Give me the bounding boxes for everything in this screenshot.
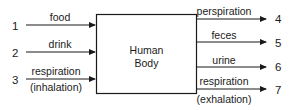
output-number-4: 4 — [275, 13, 281, 25]
input-number-2: 2 — [12, 47, 18, 59]
input-label-respiration: respiration — [31, 65, 80, 77]
output-number-7: 7 — [275, 84, 281, 96]
output-label-respiration: respiration — [199, 75, 248, 87]
output-label-urine: urine — [212, 54, 235, 66]
input-label-drink: drink — [49, 38, 72, 50]
output-label-feces: feces — [211, 29, 236, 41]
output-label-perspiration: perspiration — [197, 5, 252, 17]
output-number-5: 5 — [275, 37, 281, 49]
input-number-1: 1 — [12, 20, 18, 32]
output-number-6: 6 — [275, 61, 281, 73]
input-number-3: 3 — [12, 74, 18, 86]
box-label-line2: Body — [96, 57, 197, 70]
input-sublabel-inhalation: (inhalation) — [30, 81, 82, 93]
input-label-food: food — [50, 11, 70, 23]
box-label-line1: Human — [96, 44, 197, 57]
output-sublabel-exhalation: (exhalation) — [197, 93, 252, 105]
human-body-label: Human Body — [96, 44, 197, 70]
